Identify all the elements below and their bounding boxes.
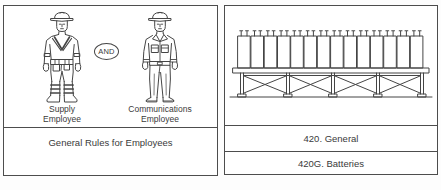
and-connector: AND bbox=[94, 43, 119, 60]
supply-employee-caption: Supply Employee bbox=[12, 105, 112, 124]
caption-line: Employee bbox=[110, 115, 210, 125]
section-label: 420G. Batteries bbox=[298, 158, 364, 169]
caption-line: Employee bbox=[12, 115, 112, 125]
section-row-general: 420. General bbox=[225, 125, 437, 151]
employees-panel: AND bbox=[3, 5, 218, 176]
section-label: 420. General bbox=[304, 133, 359, 144]
batteries-panel: 420. General 420G. Batteries bbox=[224, 5, 438, 175]
communications-employee-illustration bbox=[136, 10, 184, 105]
battery-illustration-area bbox=[225, 6, 437, 125]
rack-shelf bbox=[233, 68, 429, 73]
communications-employee-caption: Communications Employee bbox=[110, 105, 210, 124]
supply-employee-illustration bbox=[38, 10, 86, 105]
general-rules-caption: General Rules for Employees bbox=[4, 127, 217, 175]
and-label: AND bbox=[98, 47, 114, 56]
section-row-batteries: 420G. Batteries bbox=[225, 151, 437, 174]
battery-rack-illustration bbox=[228, 28, 434, 100]
battery-cells bbox=[238, 31, 423, 68]
